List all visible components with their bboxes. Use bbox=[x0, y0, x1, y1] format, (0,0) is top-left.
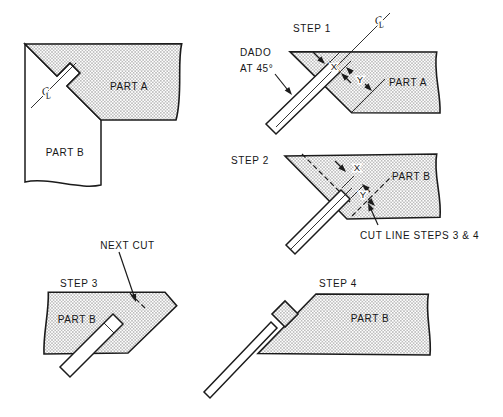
step4-title: STEP 4 bbox=[319, 278, 357, 289]
step1-title: STEP 1 bbox=[293, 23, 331, 34]
diagram-svg: C L PART A PART B C L X Y PART A DADO AT… bbox=[0, 0, 503, 417]
figure-step-4: STEP 4 PART B bbox=[204, 278, 430, 398]
step1-dado-label-line1: DADO bbox=[240, 47, 271, 58]
step2-dim-y-label: Y bbox=[360, 189, 367, 200]
step1-dado-spline-strip bbox=[266, 62, 340, 134]
step2-centerline bbox=[290, 188, 352, 250]
step2-title: STEP 2 bbox=[231, 155, 269, 166]
step4-part-b-label: PART B bbox=[351, 313, 390, 324]
step1-part-a-label: PART A bbox=[389, 77, 427, 88]
step1-dado-label-line2: AT 45° bbox=[240, 63, 273, 74]
figure-assembled-joint: C L PART A PART B bbox=[25, 44, 182, 186]
joinery-diagram: C L PART A PART B C L X Y PART A DADO AT… bbox=[0, 0, 503, 417]
step2-cutline-label: CUT LINE STEPS 3 & 4 bbox=[360, 230, 479, 241]
centerline-symbol-l: L bbox=[377, 19, 385, 30]
figure-step-2: X Y PART B CUT LINE STEPS 3 & 4 STEP 2 bbox=[231, 154, 479, 254]
assembled-part-b-label: PART B bbox=[46, 147, 85, 158]
step2-dim-x-label: X bbox=[354, 162, 361, 173]
step3-title: STEP 3 bbox=[60, 278, 98, 289]
figure-step-1: C L X Y PART A DADO AT 45° STEP 1 bbox=[240, 13, 440, 134]
step3-nextcut-label: NEXT CUT bbox=[100, 240, 155, 251]
step3-part-b-label: PART B bbox=[58, 314, 97, 325]
step1-dim-x-label: X bbox=[331, 61, 338, 72]
figure-step-3: NEXT CUT STEP 3 PART B bbox=[44, 240, 177, 378]
step3-nextcut-arrow-shaft bbox=[119, 252, 134, 296]
step2-part-b-label: PART B bbox=[392, 171, 431, 182]
step4-spline-strip bbox=[204, 322, 277, 398]
assembled-part-a-label: PART A bbox=[110, 81, 148, 92]
step1-dim-y-label: Y bbox=[357, 74, 364, 85]
